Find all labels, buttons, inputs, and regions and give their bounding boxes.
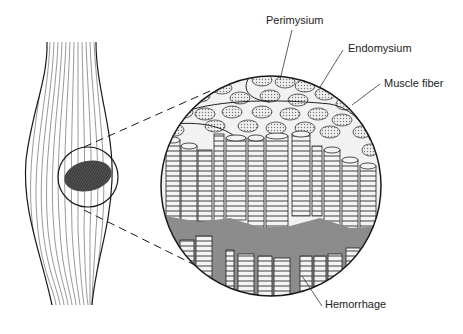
label-perimysium: Perimysium — [266, 14, 323, 26]
whole-muscle — [20, 40, 120, 310]
magnified-cross-section — [160, 70, 385, 300]
label-hemorrhage: Hemorrhage — [325, 298, 386, 310]
label-muscle-fiber: Muscle fiber — [384, 77, 443, 89]
label-endomysium: Endomysium — [348, 42, 412, 54]
